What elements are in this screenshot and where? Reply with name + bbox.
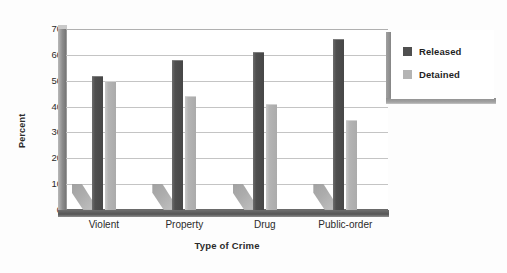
bar-rect (333, 39, 344, 210)
bar-rect (185, 96, 196, 210)
legend-swatch-released (403, 47, 412, 56)
bar-group-shadow (313, 184, 335, 210)
bar-rect (105, 81, 116, 210)
bar-group (253, 29, 277, 210)
axis-left-wall (58, 25, 66, 210)
x-axis-tick-label: Drug (254, 218, 276, 231)
bar-group (333, 29, 357, 210)
bar-released-property (172, 29, 183, 210)
legend-item-detained: Detained (403, 69, 460, 80)
bar-detained-property (185, 29, 196, 210)
chart-figure: Percent 010203040506070 ViolentPropertyD… (0, 0, 507, 273)
x-axis-title: Type of Crime (66, 240, 388, 251)
x-axis-tick-labels: ViolentPropertyDrugPublic-order (66, 218, 388, 232)
bar-group (92, 29, 116, 210)
x-axis-tick-label: Violent (89, 218, 119, 231)
y-axis-title: Percent (14, 96, 30, 166)
legend-label: Released (419, 46, 462, 57)
bar-group-shadow (72, 184, 94, 210)
bar-rect (92, 76, 103, 210)
chart-legend: ReleasedDetained (386, 30, 494, 98)
bar-group-shadow (152, 184, 174, 210)
bar-detained-violent (105, 29, 116, 210)
bar-rect (346, 120, 357, 211)
bar-rect (172, 60, 183, 210)
bar-released-violent (92, 29, 103, 210)
bar-detained-drug (266, 29, 277, 210)
bar-released-public-order (333, 29, 344, 210)
bar-group-shadow (233, 184, 255, 210)
legend-item-released: Released (403, 46, 462, 57)
bar-group (172, 29, 196, 210)
bar-series-container (66, 29, 388, 210)
legend-panel: ReleasedDetained (391, 30, 494, 99)
axis-floor (58, 210, 389, 217)
plot-area (66, 29, 388, 210)
bar-rect (266, 104, 277, 210)
legend-swatch-detained (403, 70, 412, 79)
bar-rect (253, 52, 264, 210)
legend-label: Detained (419, 69, 460, 80)
x-axis-tick-label: Property (165, 218, 203, 231)
bar-released-drug (253, 29, 264, 210)
bar-detained-public-order (346, 29, 357, 210)
x-axis-tick-label: Public-order (318, 218, 372, 231)
